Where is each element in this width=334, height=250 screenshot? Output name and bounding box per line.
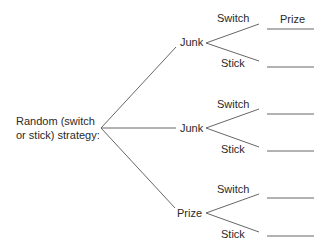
node-junk-2: Junk [180, 122, 203, 135]
option-stick-1: Stick [221, 57, 245, 70]
root-label-line2: or stick) strategy: [16, 128, 100, 142]
node-junk-1: Junk [180, 36, 203, 49]
root-label-line1: Random (switch [16, 114, 100, 128]
option-switch-3: Switch [217, 183, 249, 196]
option-stick-2: Stick [221, 143, 245, 156]
edge-root-junk1 [101, 47, 176, 128]
node-prize: Prize [177, 207, 202, 220]
edge-prize-switch [206, 194, 259, 213]
option-switch-1: Switch [217, 12, 249, 25]
edge-junk2-switch [206, 109, 259, 128]
edge-root-prize [101, 128, 175, 208]
root-label: Random (switch or stick) strategy: [16, 114, 100, 142]
option-stick-3: Stick [221, 228, 245, 241]
edge-junk1-switch [206, 24, 259, 43]
option-switch-2: Switch [217, 98, 249, 111]
outcome-junk1-switch: Prize [280, 13, 305, 26]
